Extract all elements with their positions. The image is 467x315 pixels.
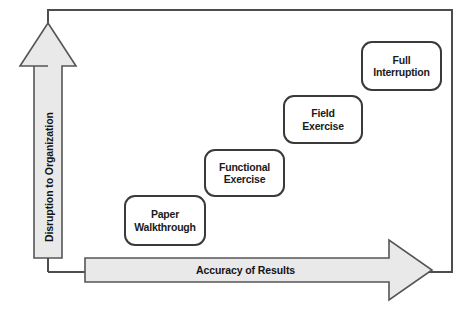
vertical-axis-label: Disruption to Organization: [43, 112, 55, 242]
horizontal-axis-label: Accuracy of Results: [196, 264, 295, 276]
stage-box-field-exercise[interactable]: [284, 96, 362, 143]
diagram-canvas: Paper Walkthrough Functional Exercise Fi…: [0, 0, 467, 315]
stage-box-functional-exercise[interactable]: [205, 150, 284, 196]
stage-box-full-interruption[interactable]: [362, 42, 441, 90]
stage-box-paper-walkthrough[interactable]: [125, 196, 205, 245]
